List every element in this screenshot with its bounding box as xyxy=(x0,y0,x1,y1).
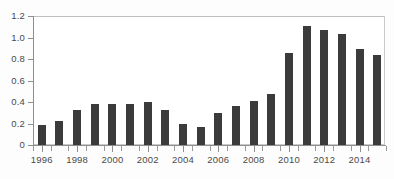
x-axis-tick-major xyxy=(218,146,219,152)
x-axis-tick-label: 2004 xyxy=(163,155,203,165)
bar xyxy=(356,49,364,145)
bar xyxy=(91,104,99,145)
x-axis-tick-label: 2000 xyxy=(92,155,132,165)
x-axis-tick-major xyxy=(254,146,255,152)
x-axis-tick xyxy=(157,146,158,151)
x-axis-tick xyxy=(86,146,87,151)
x-axis-tick-label: 2012 xyxy=(304,155,344,165)
bar xyxy=(38,125,46,145)
x-axis-tick xyxy=(51,146,52,151)
x-axis-tick-label: 2002 xyxy=(128,155,168,165)
x-axis-tick-label: 2010 xyxy=(269,155,309,165)
x-axis-tick xyxy=(315,146,316,151)
bar xyxy=(126,104,134,145)
x-axis-tick xyxy=(104,146,105,151)
bar xyxy=(285,53,293,145)
bar xyxy=(320,30,328,145)
bar xyxy=(267,94,275,145)
y-axis-tick-label: 1.2 xyxy=(0,11,25,21)
x-axis-tick-major xyxy=(112,146,113,152)
bar xyxy=(214,113,222,145)
bar xyxy=(108,104,116,145)
bar-chart: 00.20.40.60.81.01.2 19961998200020022004… xyxy=(0,0,394,179)
bar xyxy=(250,101,258,145)
y-axis-tick-label: 0.2 xyxy=(0,119,25,129)
y-axis-tick-label: 1.0 xyxy=(0,33,25,43)
bar xyxy=(373,55,381,145)
y-axis-tick-label: 0.4 xyxy=(0,97,25,107)
bar xyxy=(73,110,81,145)
bar xyxy=(197,127,205,145)
x-axis-tick-label: 1996 xyxy=(22,155,62,165)
x-axis-tick xyxy=(68,146,69,151)
y-axis-tick-label: 0 xyxy=(0,140,25,150)
x-axis-tick-major xyxy=(324,146,325,152)
x-axis-tick xyxy=(33,146,34,151)
bar xyxy=(303,26,311,145)
x-axis-tick xyxy=(227,146,228,151)
x-axis-tick xyxy=(121,146,122,151)
x-axis-tick-major xyxy=(289,146,290,152)
x-axis-tick-label: 2006 xyxy=(198,155,238,165)
x-axis-tick xyxy=(139,146,140,151)
bar xyxy=(338,34,346,145)
y-axis-tick-label: 0.6 xyxy=(0,76,25,86)
x-axis-tick xyxy=(333,146,334,151)
x-axis-tick-major xyxy=(42,146,43,152)
x-axis-tick xyxy=(192,146,193,151)
x-axis-tick xyxy=(210,146,211,151)
x-axis-tick xyxy=(386,146,387,151)
bar xyxy=(144,102,152,145)
x-axis-tick xyxy=(262,146,263,151)
bar xyxy=(55,121,63,145)
x-axis-tick-label: 2014 xyxy=(340,155,380,165)
x-axis-tick-major xyxy=(148,146,149,152)
x-axis-tick-major xyxy=(77,146,78,152)
x-axis-tick xyxy=(351,146,352,151)
y-axis-tick-label: 0.8 xyxy=(0,54,25,64)
x-axis-tick-major xyxy=(183,146,184,152)
x-axis-tick-major xyxy=(360,146,361,152)
bars-layer xyxy=(33,16,386,145)
x-axis-tick xyxy=(368,146,369,151)
x-axis-tick xyxy=(245,146,246,151)
x-axis-tick xyxy=(174,146,175,151)
x-axis-tick xyxy=(280,146,281,151)
x-axis-tick-label: 1998 xyxy=(57,155,97,165)
bar xyxy=(232,106,240,145)
bar xyxy=(179,124,187,146)
x-axis-tick-label: 2008 xyxy=(234,155,274,165)
x-axis-tick xyxy=(298,146,299,151)
bar xyxy=(161,110,169,145)
